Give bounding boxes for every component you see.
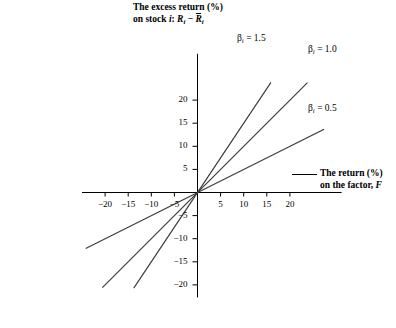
y-axis-title-prefix: on stock xyxy=(133,14,169,24)
y-tick-label: 15 xyxy=(154,117,188,127)
y-axis-title-Rbar: R xyxy=(196,14,202,26)
y-axis-title-minus: − xyxy=(185,14,195,24)
y-tick-label: −15 xyxy=(154,256,188,266)
series-label-value: = 1.5 xyxy=(244,33,266,43)
y-tick-label: −10 xyxy=(154,233,188,243)
y-axis-title-Rbar-subscript: i xyxy=(202,17,204,24)
y-tick-label: 20 xyxy=(154,94,188,104)
x-axis-title-prefix: on the factor, xyxy=(320,180,376,190)
series-label-beta-0.5: βi = 0.5 xyxy=(308,103,337,114)
y-axis-title-line1: The excess return (%) xyxy=(133,2,223,12)
x-axis-title-line1: The return (%) xyxy=(320,168,383,178)
axes-group xyxy=(82,54,342,298)
x-tick-label: 20 xyxy=(276,199,304,209)
y-axis-title-line2: on stock i: Ri − Ri xyxy=(133,14,204,24)
data-line-beta-1.0 xyxy=(102,83,307,288)
x-axis-title-factor-F: F xyxy=(376,180,382,190)
y-tick-label: 5 xyxy=(154,163,188,173)
data-line-beta-0.5 xyxy=(86,129,324,248)
series-label-value: = 1.0 xyxy=(315,44,337,54)
series-label-value: = 0.5 xyxy=(315,103,337,113)
y-tick-label: −5 xyxy=(154,210,188,220)
x-tick-label: −5 xyxy=(160,199,188,209)
series-label-beta-1.5: βi = 1.5 xyxy=(237,33,266,44)
data-lines-group xyxy=(86,82,324,288)
series-label-beta-1.0: βi = 1.0 xyxy=(308,44,337,55)
y-tick-label: −20 xyxy=(154,279,188,289)
x-axis-title: The return (%) on the factor, F xyxy=(320,168,383,191)
y-tick-label: 10 xyxy=(154,140,188,150)
x-axis-title-line2: on the factor, F xyxy=(320,180,382,190)
y-axis-title: The excess return (%) on stock i: Ri − R… xyxy=(133,2,223,27)
chart-figure: The excess return (%) on stock i: Ri − R… xyxy=(0,0,396,328)
